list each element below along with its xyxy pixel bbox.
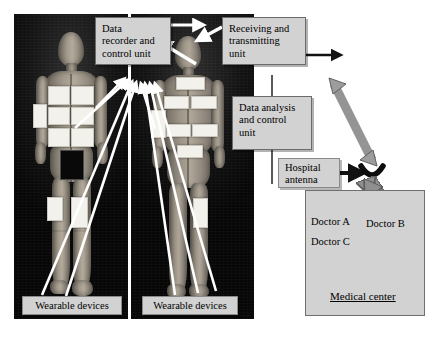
hospital-antenna-label-box[interactable]: Hospital antenna (278, 158, 340, 188)
wearable-sensor-patch (48, 107, 70, 125)
wearable-sensor-patch (192, 124, 218, 137)
body-foot-left (50, 280, 69, 294)
data-recorder-and-control-unit-box[interactable]: Data recorder and control unit (95, 17, 171, 65)
body-hand-right (97, 142, 108, 164)
wearable-sensor-patch-thigh (193, 198, 208, 228)
box-line: Hospital (285, 162, 333, 174)
body-knee-shadow (52, 230, 90, 232)
doctor-b-label: Doctor B (366, 218, 405, 230)
box-line: Data (102, 23, 164, 35)
data-analysis-and-control-unit-box[interactable]: Data analysis and control unit (232, 96, 312, 150)
wearable-sensor-patch-arm (151, 110, 166, 138)
body-leg-left (169, 183, 187, 291)
body-hand-left (35, 142, 46, 164)
box-line: transmitting (229, 35, 299, 47)
body-hand-right (214, 146, 225, 168)
body-hand-left (152, 146, 163, 168)
wearable-sensor-patch (48, 128, 70, 147)
body-leg-right (73, 177, 91, 287)
wearable-sensor-patch (166, 124, 191, 137)
box-line: Data analysis (239, 102, 305, 114)
box-line: control unit (102, 48, 164, 60)
box-line: unit (229, 48, 299, 60)
box-line: and control (239, 114, 305, 126)
bidirectional-uplink-arrow-icon (329, 78, 377, 166)
receiving-and-transmitting-unit-box[interactable]: Receiving and transmitting unit (222, 17, 306, 65)
wearable-sensor-patch (71, 86, 94, 105)
satellite-dish-icon (361, 166, 383, 190)
box-line: unit (239, 127, 305, 139)
wearable-sensor-patch (191, 96, 217, 109)
wearable-sensor-patch-thigh-right (71, 197, 88, 228)
wearable-devices-label-left[interactable]: Wearable devices (22, 296, 122, 315)
wearable-sensor-patch (71, 107, 94, 125)
box-line: Receiving and (229, 23, 299, 35)
wearable-sensor-patch-arm (33, 104, 47, 128)
body-leg-left (52, 177, 70, 287)
wearable-devices-label-right[interactable]: Wearable devices (142, 296, 238, 315)
wearable-sensor-patch-abdomen (177, 145, 203, 158)
medical-center-title: Medical center (330, 290, 396, 302)
wearable-sensor-patch (164, 96, 189, 109)
doctor-a-label: Doctor A (311, 216, 350, 228)
body-foot-right (72, 280, 93, 296)
wearable-sensor-patch-thigh-left (47, 197, 63, 221)
box-line: recorder and (102, 35, 164, 47)
wearable-sensor-patch (71, 128, 94, 147)
doctor-c-label: Doctor C (311, 236, 350, 248)
box-line: antenna (285, 174, 333, 186)
body-arm-right (211, 80, 224, 152)
wearable-device-dark-module (60, 150, 84, 180)
wearable-sensor-patch (48, 86, 70, 105)
body-head (58, 32, 84, 66)
wearable-sensor-patch-chest-top (176, 77, 205, 90)
body-arm-right (94, 76, 107, 148)
body-head (175, 36, 201, 70)
telemedicine-architecture-diagram: Data recorder and control unit Receiving… (0, 0, 438, 339)
